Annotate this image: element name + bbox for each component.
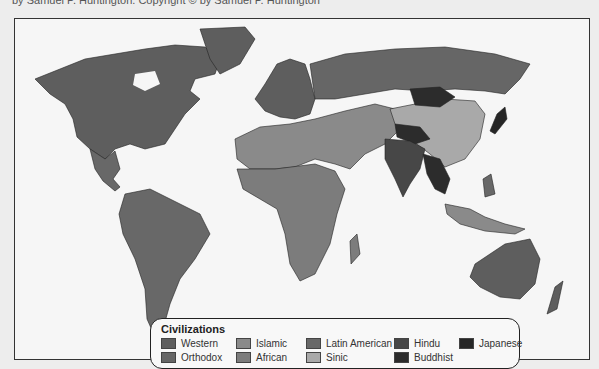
swatch-icon bbox=[394, 338, 409, 349]
region-south-america bbox=[119, 189, 210, 337]
region-islamic bbox=[235, 104, 400, 169]
legend: Civilizations Western Orthodox Islamic A… bbox=[150, 318, 520, 369]
legend-grid: Western Orthodox Islamic African Latin A… bbox=[161, 338, 519, 368]
legend-label: Hindu bbox=[414, 338, 440, 349]
legend-label: Sinic bbox=[326, 352, 348, 363]
legend-item-latin-american: Latin American bbox=[306, 338, 392, 349]
caption: by Samuel P. Huntington. Copyright © by … bbox=[12, 0, 320, 6]
legend-label: Latin American bbox=[326, 338, 392, 349]
legend-label: Japanese bbox=[479, 338, 522, 349]
legend-item-western: Western bbox=[161, 338, 218, 349]
legend-label: African bbox=[256, 352, 287, 363]
world-map bbox=[15, 19, 589, 359]
legend-item-japanese: Japanese bbox=[459, 338, 522, 349]
swatch-icon bbox=[306, 352, 321, 363]
legend-item-african: African bbox=[236, 352, 287, 363]
swatch-icon bbox=[306, 338, 321, 349]
region-europe bbox=[255, 59, 315, 119]
region-australia bbox=[470, 239, 540, 299]
legend-title: Civilizations bbox=[161, 323, 519, 335]
legend-item-hindu: Hindu bbox=[394, 338, 440, 349]
legend-item-islamic: Islamic bbox=[236, 338, 287, 349]
swatch-icon bbox=[236, 352, 251, 363]
legend-item-sinic: Sinic bbox=[306, 352, 348, 363]
swatch-icon bbox=[161, 352, 176, 363]
region-africa bbox=[237, 164, 345, 281]
legend-label: Islamic bbox=[256, 338, 287, 349]
swatch-icon bbox=[394, 352, 409, 363]
region-north-america bbox=[35, 45, 220, 159]
legend-item-orthodox: Orthodox bbox=[161, 352, 222, 363]
legend-label: Buddhist bbox=[414, 352, 453, 363]
region-japan bbox=[490, 107, 507, 134]
swatch-icon bbox=[236, 338, 251, 349]
region-india bbox=[385, 139, 425, 197]
region-indonesia bbox=[445, 204, 525, 234]
legend-label: Western bbox=[181, 338, 218, 349]
swatch-icon bbox=[161, 338, 176, 349]
map-frame bbox=[14, 18, 590, 360]
swatch-icon bbox=[459, 338, 474, 349]
legend-label: Orthodox bbox=[181, 352, 222, 363]
legend-item-buddhist: Buddhist bbox=[394, 352, 453, 363]
